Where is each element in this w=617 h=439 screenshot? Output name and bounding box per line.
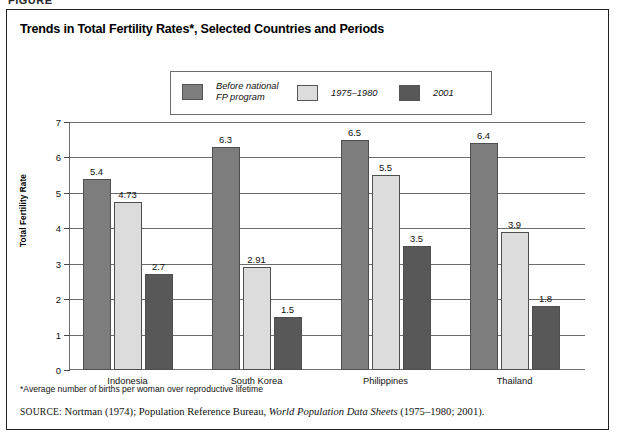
bar [274,317,302,370]
bar [145,274,173,370]
y-tick-mark [64,370,70,371]
source-line: SOURCE: Nortman (1974); Population Refer… [20,406,484,417]
source-publication-title: World Population Data Sheets [269,406,398,417]
y-tick-label: 2 [45,294,61,305]
bar [114,202,142,370]
y-tick-mark [64,299,70,300]
plot-area: 5.44.732.76.32.911.56.55.53.56.43.91.8 0… [69,122,585,370]
source-after-italic: (1975–1980; 2001). [400,406,484,417]
source-label: SOURCE: [20,406,62,417]
y-tick-mark [64,193,70,194]
y-tick-label: 6 [45,152,61,163]
bar [403,246,431,370]
bar [470,143,498,370]
bar-value-label: 1.8 [539,293,552,304]
y-tick-mark [64,122,70,123]
bar [532,306,560,370]
bar [243,267,271,370]
bars-layer: 5.44.732.76.32.911.56.55.53.56.43.91.8 [69,122,585,370]
y-tick-label: 0 [45,365,61,376]
y-tick-mark [64,228,70,229]
y-tick-label: 7 [45,117,61,128]
bar [83,179,111,370]
bar-value-label: 6.4 [477,130,490,141]
y-tick-label: 3 [45,258,61,269]
bar-value-label: 5.5 [379,162,392,173]
bar-value-label: 3.5 [410,233,423,244]
y-tick-label: 5 [45,187,61,198]
bar [372,175,400,370]
bar [212,147,240,370]
bar-value-label: 4.73 [118,189,137,200]
bar-value-label: 2.91 [247,254,266,265]
figure-kicker: FIGURE [8,0,53,6]
bar-value-label: 1.5 [281,304,294,315]
plot-wrapper: Total Fertility Rate 5.44.732.76.32.911.… [7,10,610,431]
source-before-italic: Nortman (1974); Population Reference Bur… [65,406,267,417]
bar-value-label: 5.4 [90,166,103,177]
y-tick-mark [64,335,70,336]
bar-value-label: 6.5 [348,127,361,138]
footnote-text: *Average number of births per woman over… [20,384,263,394]
y-tick-label: 4 [45,223,61,234]
y-tick-mark [64,157,70,158]
y-tick-label: 1 [45,329,61,340]
bar [501,232,529,370]
bar-value-label: 3.9 [508,219,521,230]
bar [341,140,369,370]
y-tick-mark [64,264,70,265]
x-axis-category-label: Philippines [363,376,408,386]
figure-container: Trends in Total Fertility Rates*, Select… [6,9,609,430]
y-axis-title: Total Fertility Rate [19,151,28,271]
x-axis-category-label: Thailand [497,376,533,386]
bar-value-label: 2.7 [152,261,165,272]
bar-value-label: 6.3 [219,134,232,145]
